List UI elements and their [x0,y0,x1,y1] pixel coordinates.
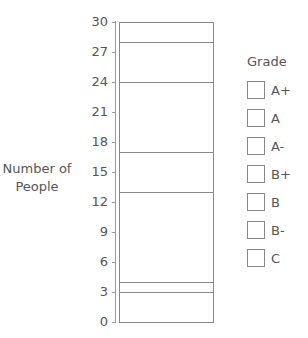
y-tick-label: 6 [78,255,108,269]
legend-item: A+ [247,80,291,100]
legend-item: B [247,192,280,212]
legend-item: A- [247,136,284,156]
legend-swatch [247,193,265,211]
legend-title: Grade [247,54,287,69]
legend-item: C [247,248,280,268]
bar-segment-B- [119,282,214,283]
y-tick-label: 12 [78,195,108,209]
legend-label: A+ [271,83,291,98]
legend-swatch [247,81,265,99]
bar-segment-A [119,42,214,43]
bar-segment-A- [119,82,214,83]
y-tick-label: 27 [78,45,108,59]
legend-label: B- [271,223,285,238]
bar-outline [119,22,214,323]
legend-item: B+ [247,164,291,184]
legend-swatch [247,249,265,267]
legend-label: B [271,195,280,210]
y-tick-label: 3 [78,285,108,299]
y-axis-label-line1: Number of [0,160,74,178]
y-axis-label-line2: People [0,178,74,196]
y-axis-line [115,21,116,322]
legend-swatch [247,221,265,239]
bar-segment-B [119,192,214,193]
y-tick-label: 18 [78,135,108,149]
legend-label: A- [271,139,284,154]
legend-swatch [247,165,265,183]
y-tick-label: 9 [78,225,108,239]
legend-item: A [247,108,280,128]
legend-item: B- [247,220,285,240]
legend-swatch [247,109,265,127]
y-tick-label: 21 [78,105,108,119]
legend-label: B+ [271,167,291,182]
bar-segment-C [119,292,214,293]
y-tick-mark [112,322,116,323]
y-tick-label: 15 [78,165,108,179]
y-tick-label: 30 [78,15,108,29]
y-tick-label: 0 [78,315,108,329]
legend-label: C [271,251,280,266]
y-tick-label: 24 [78,75,108,89]
bar-segment-B+ [119,152,214,153]
legend-swatch [247,137,265,155]
legend-label: A [271,111,280,126]
y-axis-label: Number of People [0,160,74,196]
